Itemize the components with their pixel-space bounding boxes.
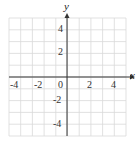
y-tick-label: 4 (58, 24, 63, 34)
y-axis-label: y (64, 1, 69, 12)
x-tick-label: 2 (87, 80, 92, 90)
x-tick-label: 0 (58, 80, 63, 90)
y-axis-arrow-icon (65, 13, 70, 18)
x-tick-label: -4 (10, 80, 18, 90)
y-tick-label: -4 (53, 119, 61, 129)
x-tick-label: 4 (111, 80, 116, 90)
y-tick-label: 2 (58, 47, 63, 57)
coordinate-grid (0, 0, 138, 142)
x-tick-label: -2 (34, 80, 42, 90)
y-tick-label: -2 (53, 95, 61, 105)
x-axis-label: x (130, 70, 135, 81)
